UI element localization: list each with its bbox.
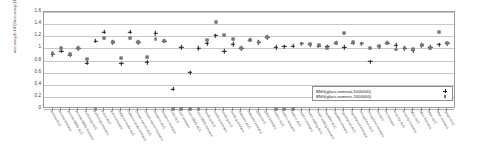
data-point xyxy=(103,37,106,40)
data-point xyxy=(213,33,217,37)
gridline xyxy=(44,12,454,13)
y-tick-label: 1.4 xyxy=(1,21,41,26)
data-point xyxy=(145,60,149,64)
gridline xyxy=(44,24,454,25)
data-point xyxy=(153,31,157,35)
data-point xyxy=(266,36,269,39)
data-point xyxy=(282,44,286,48)
data-point xyxy=(120,57,123,60)
data-point xyxy=(317,44,320,47)
data-point xyxy=(231,38,234,41)
data-point xyxy=(403,47,406,50)
data-point xyxy=(93,39,97,43)
data-point xyxy=(205,41,209,45)
data-point xyxy=(386,41,389,44)
y-tick-label: 1.6 xyxy=(1,9,41,14)
y-tick-label: 0.2 xyxy=(1,94,41,99)
data-point xyxy=(394,43,398,47)
data-point xyxy=(137,41,140,44)
data-point xyxy=(437,31,440,34)
data-point xyxy=(334,41,337,44)
x-axis-tick-labels: anneal ALCanneal kmeansanneal.ORIG ALCan… xyxy=(43,110,455,167)
data-point xyxy=(412,48,415,51)
data-point xyxy=(326,47,329,50)
data-point xyxy=(429,46,432,49)
legend-label-nominal: BNG(glass,nominal,1000000) xyxy=(316,89,441,94)
data-point xyxy=(249,38,252,41)
data-point xyxy=(51,51,54,54)
y-tick-label: 0 xyxy=(1,106,41,111)
data-point xyxy=(163,40,166,43)
gridline xyxy=(44,73,454,74)
data-point xyxy=(291,44,295,48)
y-axis-tick-labels: 00.20.40.60.811.21.41.6 xyxy=(0,11,41,108)
data-point xyxy=(214,20,217,23)
data-point xyxy=(68,53,71,56)
data-point xyxy=(206,38,209,41)
data-point xyxy=(257,41,260,44)
data-point xyxy=(377,44,380,47)
data-point xyxy=(154,38,157,41)
chart-figure: accuracy(b-NN)/accuracy(LD-kNN) 00.20.40… xyxy=(0,0,495,167)
data-point xyxy=(240,47,243,50)
y-tick-label: 1.2 xyxy=(1,33,41,38)
data-point xyxy=(394,48,397,51)
data-point xyxy=(171,87,175,91)
data-point xyxy=(119,61,123,65)
data-point xyxy=(111,41,114,44)
gridline xyxy=(44,48,454,49)
data-point xyxy=(85,57,88,60)
data-point xyxy=(309,43,312,46)
gridline xyxy=(44,61,454,62)
legend-label-numeric: BNG(glass,numeric,1000000) xyxy=(316,94,441,99)
legend-item-nominal: BNG(glass,nominal,1000000) xyxy=(316,89,449,95)
data-point xyxy=(85,61,89,65)
legend-item-numeric: BNG(glass,numeric,1000000) xyxy=(316,94,449,100)
data-point xyxy=(77,47,80,50)
y-tick-label: 0.4 xyxy=(1,81,41,86)
data-point xyxy=(274,45,278,49)
data-point xyxy=(102,30,106,34)
data-point xyxy=(300,42,303,45)
y-tick-label: 0.8 xyxy=(1,57,41,62)
data-point xyxy=(342,45,346,49)
data-point xyxy=(369,47,372,50)
y-tick-label: 0.6 xyxy=(1,69,41,74)
data-point xyxy=(231,42,235,46)
data-point xyxy=(196,46,200,50)
data-point xyxy=(128,37,131,40)
data-point xyxy=(437,43,441,47)
y-tick-label: 1 xyxy=(1,45,41,50)
data-point xyxy=(343,32,346,35)
data-point xyxy=(222,49,226,53)
data-point xyxy=(446,41,449,44)
data-point xyxy=(179,45,183,49)
data-point xyxy=(360,42,363,45)
legend-marker-square-icon xyxy=(441,94,449,100)
data-point xyxy=(59,49,63,53)
data-point xyxy=(128,30,132,34)
data-point xyxy=(60,46,63,49)
data-point xyxy=(352,40,355,43)
chart-legend: BNG(glass,nominal,1000000) BNG(glass,num… xyxy=(312,86,453,101)
data-point xyxy=(368,60,372,64)
data-point xyxy=(223,34,226,37)
data-point xyxy=(420,43,423,46)
data-point xyxy=(188,70,192,74)
data-point xyxy=(146,55,149,58)
